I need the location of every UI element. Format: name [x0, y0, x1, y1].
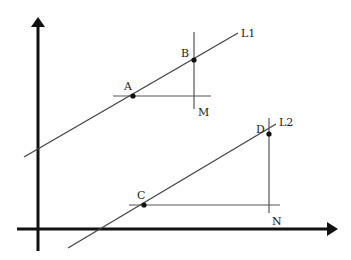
point-C-label: C [137, 189, 145, 202]
corner-label-N: N [272, 215, 282, 228]
line-L2-label: L2 [279, 116, 293, 129]
guides-group [113, 32, 280, 213]
point-D [266, 131, 271, 136]
point-A-label: A [123, 80, 133, 93]
point-B-label: B [181, 47, 189, 60]
point-C [141, 202, 146, 207]
corner-label-M: M [198, 106, 209, 119]
point-A [130, 93, 135, 98]
line-L1-label: L1 [241, 27, 255, 40]
point-D-label: D [256, 123, 265, 136]
diagram-canvas: L1 L2 A B C D M N [0, 0, 351, 260]
y-axis-arrow-icon [31, 17, 45, 27]
points-group: A B C D [123, 47, 272, 208]
lines-group: L1 L2 [24, 27, 293, 248]
x-axis-arrow-icon [327, 222, 338, 236]
axes [17, 17, 338, 251]
point-B [191, 57, 196, 62]
